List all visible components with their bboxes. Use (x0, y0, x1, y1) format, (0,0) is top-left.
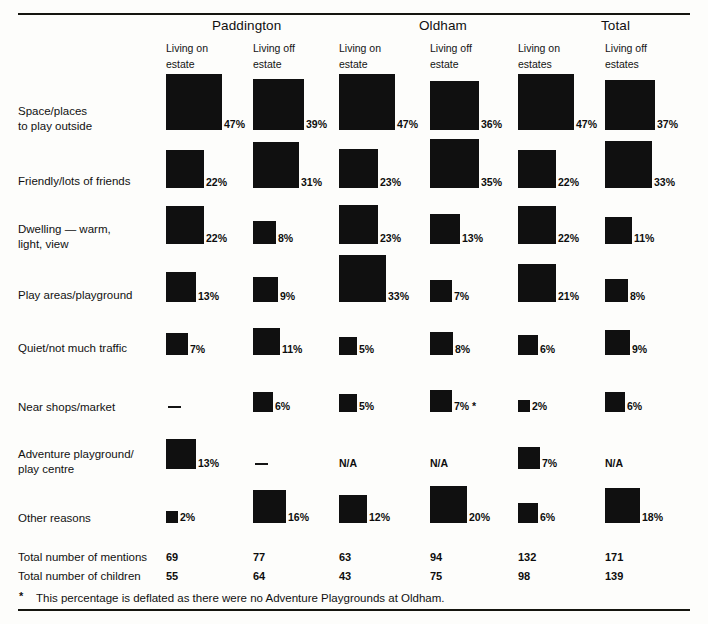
data-cell: 13% (166, 469, 266, 470)
row-label: Adventure playground/play centre (18, 447, 168, 477)
data-cell: 6% (518, 355, 618, 356)
group-heading: Paddington (212, 18, 281, 33)
data-cell: 13% (166, 302, 266, 303)
value-label: 6% (275, 401, 290, 412)
totals-value: 171 (605, 550, 623, 564)
no-data-dash-icon (255, 463, 268, 465)
value-label: 5% (359, 401, 374, 412)
data-cell: 8% (605, 302, 705, 303)
value-label: 2% (180, 512, 195, 523)
top-rule (18, 13, 690, 15)
area-square (518, 335, 538, 355)
data-cell: 36% (430, 130, 530, 131)
value-label: 21% (558, 291, 579, 302)
data-cell: 16% (253, 523, 353, 524)
row-label-line: Other reasons (18, 511, 168, 526)
data-cell: 7% (430, 302, 530, 303)
value-label: 7% (454, 291, 469, 302)
row-label: Other reasons (18, 511, 168, 526)
value-label: 5% (359, 344, 374, 355)
area-square (430, 390, 452, 412)
row-label-line: Adventure playground/ (18, 447, 168, 462)
data-cell: 6% (518, 523, 618, 524)
data-cell: 33% (605, 188, 705, 189)
data-cell: 8% (253, 244, 353, 245)
value-label: 12% (369, 512, 390, 523)
area-square (518, 150, 556, 188)
value-label: 22% (558, 233, 579, 244)
area-square (430, 280, 452, 302)
value-label: 23% (380, 233, 401, 244)
data-cell: 6% (253, 412, 353, 413)
area-square (339, 205, 378, 244)
row-label-line: Space/places (18, 104, 168, 119)
column-heading-line1: Living off (605, 42, 647, 54)
data-cell (166, 412, 266, 413)
totals-value: 63 (339, 550, 351, 564)
data-cell: N/A (339, 469, 439, 470)
not-applicable-label: N/A (430, 458, 448, 469)
value-label: 22% (558, 177, 579, 188)
data-cell: 7% (166, 355, 266, 356)
no-data-dash-icon (168, 406, 181, 408)
value-label: 6% (540, 512, 555, 523)
value-label: 39% (306, 119, 327, 130)
area-square (166, 439, 196, 469)
value-label: 8% (455, 344, 470, 355)
value-label: 11% (282, 344, 302, 355)
data-cell: 7% * (430, 412, 530, 413)
value-label: 33% (654, 177, 675, 188)
area-square (166, 333, 188, 355)
data-cell: 6% (605, 412, 705, 413)
area-square (518, 264, 556, 302)
data-cell: 12% (339, 523, 439, 524)
area-square (339, 394, 357, 412)
row-label: Quiet/not much traffic (18, 341, 168, 356)
figure-sheet: PaddingtonOldhamTotal Living onestateLiv… (0, 0, 708, 624)
area-square (339, 255, 386, 302)
totals-row-label: Total number of mentions (18, 550, 147, 564)
area-square (166, 206, 204, 244)
value-label: 20% (469, 512, 490, 523)
area-square (518, 74, 574, 130)
value-label: 13% (198, 291, 219, 302)
footnote-text: This percentage is deflated as there wer… (36, 591, 445, 605)
row-label-line: light, view (18, 237, 168, 252)
area-square (253, 328, 280, 355)
area-square (605, 217, 632, 244)
data-cell: N/A (430, 469, 530, 470)
row-label-line: to play outside (18, 119, 168, 134)
totals-value: 139 (605, 569, 623, 583)
value-label: 7% (542, 458, 557, 469)
area-square (518, 400, 530, 412)
value-label: 6% (627, 401, 642, 412)
row-label-line: play centre (18, 462, 168, 477)
value-label: 37% (657, 119, 678, 130)
data-cell: 37% (605, 130, 705, 131)
row-label-line: Quiet/not much traffic (18, 341, 168, 356)
row-label-line: Play areas/playground (18, 288, 168, 303)
data-cell: 23% (339, 244, 439, 245)
column-heading-line1: Living off (430, 42, 472, 54)
totals-row-label: Total number of children (18, 569, 141, 583)
row-label: Near shops/market (18, 400, 168, 415)
totals-value: 43 (339, 569, 351, 583)
area-square (339, 149, 378, 188)
area-square (166, 511, 178, 523)
value-label: 22% (206, 233, 227, 244)
column-heading-line2: estate (430, 56, 516, 72)
data-cell: 23% (339, 188, 439, 189)
value-label: 8% (630, 291, 645, 302)
area-square (166, 272, 196, 302)
area-square (518, 206, 556, 244)
totals-value: 132 (518, 550, 536, 564)
data-cell: 18% (605, 523, 705, 524)
data-cell: 8% (430, 355, 530, 356)
data-cell (253, 469, 353, 470)
value-label: 36% (481, 119, 502, 130)
data-cell: 35% (430, 188, 530, 189)
not-applicable-label: N/A (605, 458, 623, 469)
area-square (605, 488, 640, 523)
data-cell: 5% (339, 412, 439, 413)
value-label: 11% (634, 233, 654, 244)
